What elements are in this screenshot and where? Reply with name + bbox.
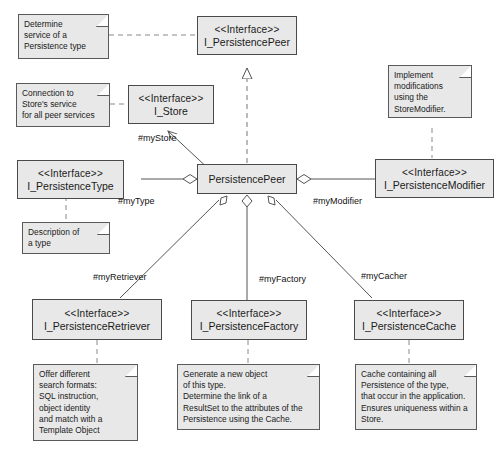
node-i-persistencetype[interactable]: <<Interface>> I_PersistenceType bbox=[17, 160, 124, 199]
diamond-myfactory bbox=[242, 195, 252, 207]
diamond-mymodifier bbox=[297, 175, 311, 184]
interface-name: I_PersistenceCache bbox=[362, 320, 456, 333]
node-i-persistencecache[interactable]: <<Interface>> I_PersistenceCache bbox=[354, 300, 464, 340]
interface-name: I_PersistencePeer bbox=[204, 36, 290, 49]
stereotype-label: <<Interface>> bbox=[377, 307, 442, 320]
edge-label-myretriever: #myRetriever bbox=[93, 272, 147, 283]
note-retriever: Offer different search formats: SQL inst… bbox=[33, 364, 138, 441]
node-persistencepeer[interactable]: PersistencePeer bbox=[197, 164, 297, 194]
stereotype-label: <<Interface>> bbox=[65, 307, 130, 320]
stereotype-label: <<Interface>> bbox=[38, 167, 103, 180]
interface-name: I_PersistenceModifier bbox=[384, 179, 485, 192]
class-name: PersistencePeer bbox=[208, 173, 285, 186]
node-i-persistencemodifier[interactable]: <<Interface>> I_PersistenceModifier bbox=[375, 159, 494, 198]
node-i-persistencepeer[interactable]: <<Interface>> I_PersistencePeer bbox=[197, 16, 297, 55]
edge-label-mytype: #myType bbox=[118, 196, 155, 207]
uml-class-diagram: I_Store --> <<Interface>> I_PersistenceP… bbox=[0, 0, 498, 451]
diamond-myretriever bbox=[220, 196, 227, 205]
note-description-type: Description of a type bbox=[22, 222, 110, 254]
note-determine-service: Determine service of a Persistence type bbox=[18, 14, 109, 59]
interface-name: I_PersistenceFactory bbox=[200, 320, 299, 333]
edge-label-mystore: #myStore bbox=[138, 133, 177, 144]
diamond-mytype bbox=[183, 175, 197, 184]
interface-name: I_PersistenceType bbox=[27, 180, 113, 193]
stereotype-label: <<Interface>> bbox=[217, 307, 282, 320]
interface-name: I_PersistenceRetriever bbox=[44, 320, 150, 333]
stereotype-label: <<Interface>> bbox=[402, 166, 467, 179]
node-i-persistenceretriever[interactable]: <<Interface>> I_PersistenceRetriever bbox=[32, 299, 162, 340]
node-i-store[interactable]: <<Interface>> I_Store bbox=[128, 85, 214, 124]
diamond-mycacher bbox=[268, 196, 275, 205]
node-i-persistencefactory[interactable]: <<Interface>> I_PersistenceFactory bbox=[191, 300, 307, 340]
edge-label-mycacher: #myCacher bbox=[361, 271, 407, 282]
association-peer-to-ipersistenceretriever bbox=[120, 200, 219, 298]
stereotype-label: <<Interface>> bbox=[139, 92, 204, 105]
note-factory: Generate a new object of this type. Dete… bbox=[177, 364, 320, 430]
note-cache: Cache containing all Persistence of the … bbox=[355, 364, 477, 430]
note-implement-modifications: Implement modifications using the StoreM… bbox=[388, 65, 472, 118]
interface-name: I_Store bbox=[154, 105, 188, 118]
edge-label-myfactory: #myFactory bbox=[259, 274, 306, 285]
stereotype-label: <<Interface>> bbox=[215, 23, 280, 36]
note-connection-store: Connection to Store's service for all pe… bbox=[16, 83, 110, 127]
edge-label-mymodifier: #myModifier bbox=[313, 196, 362, 207]
